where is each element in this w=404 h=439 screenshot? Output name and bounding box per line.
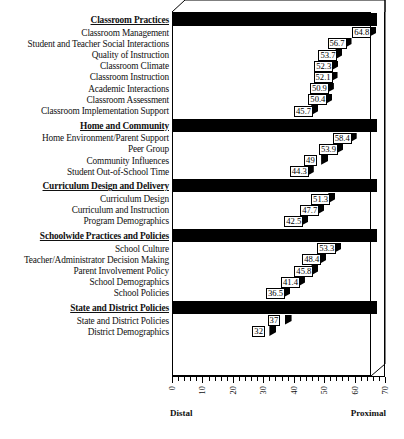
bar xyxy=(172,83,327,93)
bar-value-label: 52.3 xyxy=(314,61,333,72)
bar-value-label: 50.9 xyxy=(310,83,329,94)
bar-value-label: 48.4 xyxy=(302,254,321,265)
x-tick-major xyxy=(263,377,264,383)
category-label: Teacher/Administrator Decision Making xyxy=(24,255,169,265)
axis-annotation-distal: Distal xyxy=(170,408,193,418)
x-tick-minor xyxy=(221,377,222,381)
x-tick-label: 70 xyxy=(381,386,390,394)
x-tick-minor xyxy=(275,377,276,381)
x-tick-major xyxy=(202,377,203,383)
bar xyxy=(172,277,298,287)
bar-value-label: 50.4 xyxy=(308,94,327,105)
x-tick-minor xyxy=(215,377,216,381)
bar xyxy=(172,193,328,203)
bar-value-label: 45.8 xyxy=(294,266,313,277)
x-tick-minor xyxy=(269,377,270,381)
bar-value-label: 58.4 xyxy=(333,133,352,144)
x-tick-minor xyxy=(227,377,228,381)
bar xyxy=(172,166,307,176)
x-tick-major xyxy=(233,377,234,383)
bar-value-label: 64.8 xyxy=(352,27,371,38)
bar-value-label: 32 xyxy=(252,326,265,337)
group-header-label: Schoolwide Practices and Policies xyxy=(40,231,169,241)
chart-right-wall xyxy=(371,12,385,376)
x-tick-minor xyxy=(330,377,331,381)
category-label: Classroom Instruction xyxy=(90,72,169,82)
group-header-label: Curriculum Design and Delivery xyxy=(43,181,170,191)
x-tick-label: 30 xyxy=(259,386,268,394)
bar xyxy=(172,133,350,143)
x-tick-label: 20 xyxy=(229,386,238,394)
x-tick-minor xyxy=(251,377,252,381)
category-label: Peer Group xyxy=(128,144,169,154)
group-header-bar xyxy=(172,13,377,26)
x-tick-minor xyxy=(318,377,319,381)
x-tick-minor xyxy=(367,377,368,381)
bar-value-label: 37 xyxy=(268,315,281,326)
category-label: Program Demographics xyxy=(83,216,169,226)
x-tick-label: 0 xyxy=(168,386,177,390)
bar xyxy=(172,254,319,264)
x-tick-minor xyxy=(300,377,301,381)
x-tick-minor xyxy=(312,377,313,381)
bar-value-label: 52.1 xyxy=(314,72,333,83)
category-label: Student Out-of-School Time xyxy=(67,167,169,177)
group-header-bar xyxy=(172,119,377,132)
category-label: Academic Interactions xyxy=(88,84,169,94)
x-tick-minor xyxy=(379,377,380,381)
chart-container: Classroom PracticesClassroom ManagementS… xyxy=(0,0,404,439)
bar xyxy=(172,61,331,71)
x-tick-label: 40 xyxy=(290,386,299,394)
x-tick-minor xyxy=(178,377,179,381)
bar-value-label: 53.7 xyxy=(318,50,337,61)
bar xyxy=(172,72,331,82)
category-label: School Culture xyxy=(115,244,169,254)
category-label: Classroom Climate xyxy=(100,61,169,71)
category-label: Parent Involvement Policy xyxy=(74,266,169,276)
bar-value-label: 53.9 xyxy=(319,144,338,155)
x-tick-minor xyxy=(239,377,240,381)
category-label: Classroom Implementation Support xyxy=(41,106,169,116)
bar-value-label: 49 xyxy=(304,155,317,166)
category-label: Community Influences xyxy=(87,156,169,166)
group-header-bar xyxy=(172,229,377,242)
bar xyxy=(172,243,334,253)
category-label: School Demographics xyxy=(89,277,169,287)
category-label: Curriculum Design xyxy=(100,194,169,204)
bar xyxy=(172,216,301,226)
bar xyxy=(172,27,369,37)
bar xyxy=(172,205,317,215)
x-tick-minor xyxy=(282,377,283,381)
x-tick-major xyxy=(355,377,356,383)
category-label-column: Classroom PracticesClassroom ManagementS… xyxy=(0,0,172,380)
category-label: School Policies xyxy=(114,288,169,298)
x-tick-minor xyxy=(184,377,185,381)
x-tick-minor xyxy=(288,377,289,381)
group-header-bar xyxy=(172,301,377,314)
x-tick-minor xyxy=(209,377,210,381)
bar xyxy=(172,105,311,115)
axis-annotation-proximal: Proximal xyxy=(351,408,386,418)
x-tick-major xyxy=(385,377,386,383)
bar-value-label: 44.3 xyxy=(290,166,309,177)
x-tick-minor xyxy=(245,377,246,381)
x-tick-minor xyxy=(336,377,337,381)
x-axis-line xyxy=(172,376,385,377)
category-label: Curriculum and Instruction xyxy=(72,205,169,215)
category-label: Quality of Instruction xyxy=(92,50,169,60)
bar-value-label: 36.5 xyxy=(266,288,285,299)
x-tick-major xyxy=(294,377,295,383)
bar-value-label: 42.5 xyxy=(284,216,303,227)
x-tick-major xyxy=(172,377,173,383)
bar xyxy=(172,49,335,59)
bar xyxy=(172,265,311,275)
category-label: District Demographics xyxy=(88,327,169,337)
category-label: Student and Teacher Social Interactions xyxy=(27,39,169,49)
x-tick-label: 10 xyxy=(198,386,207,394)
bar-value-label: 51.3 xyxy=(311,194,330,205)
category-label: Home Environment/Parent Support xyxy=(42,133,169,143)
x-tick-minor xyxy=(348,377,349,381)
category-label: Classroom Management xyxy=(81,28,169,38)
bar-value-label: 45.7 xyxy=(294,106,313,117)
x-tick-label: 50 xyxy=(320,386,329,394)
